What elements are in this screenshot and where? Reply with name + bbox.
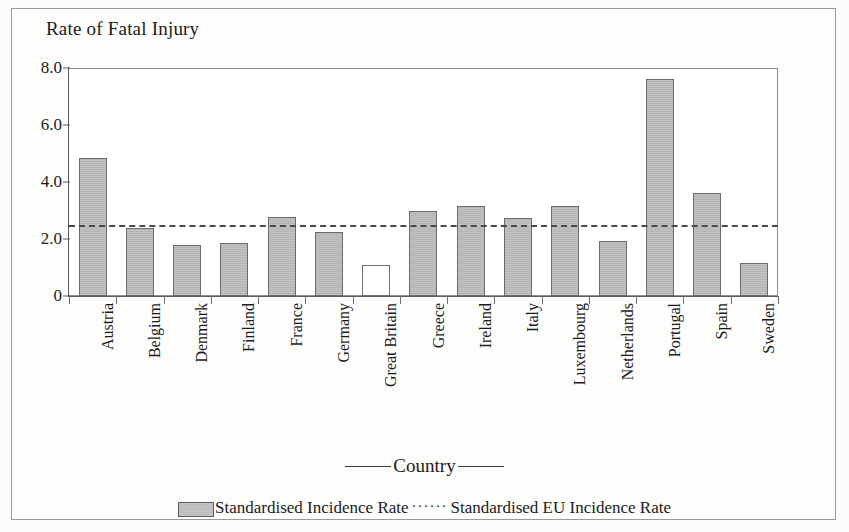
x-axis-tick-mark xyxy=(683,296,684,304)
x-axis-category-text: Sweden xyxy=(761,303,777,354)
axis-title-rule-right xyxy=(458,466,504,467)
y-axis-tick-label: 4.0 xyxy=(0,172,62,192)
x-axis-category-label: Italy xyxy=(525,303,541,332)
bar xyxy=(362,265,390,296)
bar-slot xyxy=(589,68,636,296)
x-axis-tick-mark xyxy=(589,296,590,304)
bar-slot xyxy=(636,68,683,296)
x-axis-category-text: Denmark xyxy=(194,303,210,363)
x-axis-category-label: Netherlands xyxy=(620,303,636,380)
bar-slot xyxy=(731,68,778,296)
x-axis-category-label: Sweden xyxy=(761,303,777,354)
bar-series xyxy=(69,68,778,296)
x-axis-category-text: Spain xyxy=(714,303,730,339)
bar-slot xyxy=(542,68,589,296)
bar xyxy=(173,245,201,296)
bar-slot xyxy=(164,68,211,296)
x-axis-category-label: Ireland xyxy=(478,303,494,348)
x-axis-category-text: Belgium xyxy=(147,303,163,358)
chart-legend: Standardised Incidence Rate ······ Stand… xyxy=(0,498,849,518)
bar-slot xyxy=(683,68,730,296)
axis-title-rule-left xyxy=(345,466,391,467)
bar xyxy=(268,217,296,296)
x-axis-tick-mark xyxy=(69,296,70,304)
x-axis-tick-mark xyxy=(778,296,779,304)
x-axis-category-label: Great Britain xyxy=(383,303,399,387)
x-axis-category-label: Austria xyxy=(100,303,116,350)
x-axis-category-text: Great Britain xyxy=(383,303,399,387)
x-axis-tick-mark xyxy=(258,296,259,304)
bar xyxy=(551,206,579,296)
x-axis-category-label: France xyxy=(289,303,305,347)
bar xyxy=(646,79,674,296)
bar-slot xyxy=(305,68,352,296)
x-axis-category-text: Germany xyxy=(336,303,352,363)
x-axis-category-label: Greece xyxy=(431,303,447,348)
x-axis-category-label: Germany xyxy=(336,303,352,363)
bar-slot xyxy=(353,68,400,296)
x-axis-category-text: Finland xyxy=(241,303,257,352)
x-axis-category-text: Greece xyxy=(431,303,447,348)
bar-slot xyxy=(258,68,305,296)
y-axis-tick-label: 2.0 xyxy=(0,229,62,249)
x-axis-category-text: France xyxy=(289,303,305,347)
x-axis-tick-mark xyxy=(164,296,165,304)
x-axis-category-label: Spain xyxy=(714,303,730,339)
bar-slot xyxy=(211,68,258,296)
bar xyxy=(599,241,627,296)
bar xyxy=(740,263,768,296)
x-axis-tick-mark xyxy=(447,296,448,304)
x-axis-category-text: Netherlands xyxy=(620,303,636,380)
bar xyxy=(457,206,485,296)
x-axis-category-label: Luxembourg xyxy=(572,303,588,385)
x-axis-tick-mark xyxy=(305,296,306,304)
bar xyxy=(504,218,532,296)
x-axis-tick-mark xyxy=(636,296,637,304)
chart-title: Rate of Fatal Injury xyxy=(46,18,199,40)
bar xyxy=(409,211,437,297)
x-axis-category-label: Belgium xyxy=(147,303,163,358)
x-axis-tick-mark xyxy=(494,296,495,304)
x-axis-title-label: Country xyxy=(391,455,457,477)
x-axis-category-text: Portugal xyxy=(667,303,683,357)
x-axis-tick-mark xyxy=(400,296,401,304)
x-axis-category-text: Austria xyxy=(100,303,116,350)
y-axis-tick-label: 6.0 xyxy=(0,115,62,135)
x-axis-category-text: Italy xyxy=(525,303,541,332)
bar xyxy=(126,228,154,296)
y-axis-tick-label: 8.0 xyxy=(0,58,62,78)
x-axis-tick-mark xyxy=(353,296,354,304)
bar-slot xyxy=(116,68,163,296)
bar-slot xyxy=(447,68,494,296)
x-axis-category-label: Portugal xyxy=(667,303,683,357)
bar xyxy=(693,193,721,296)
legend-dotted-line-icon: ······ xyxy=(409,498,451,515)
x-axis-tick-mark xyxy=(542,296,543,304)
x-axis-line xyxy=(68,296,779,297)
bar-slot xyxy=(400,68,447,296)
x-axis-category-label: Finland xyxy=(241,303,257,352)
x-axis-category-text: Ireland xyxy=(478,303,494,348)
bar xyxy=(220,243,248,296)
chart-page: Rate of Fatal Injury 02.04.06.08.0 Austr… xyxy=(0,0,849,532)
x-axis-tick-mark xyxy=(731,296,732,304)
bar xyxy=(315,232,343,296)
bar-slot xyxy=(494,68,541,296)
x-axis-title: Country xyxy=(0,455,849,477)
legend-label-incidence-rate: Standardised Incidence Rate xyxy=(215,498,409,518)
x-axis-tick-mark xyxy=(116,296,117,304)
x-axis-category-text: Luxembourg xyxy=(572,303,588,385)
legend-swatch-icon xyxy=(178,502,214,517)
eu-reference-line xyxy=(69,225,778,227)
x-axis-category-label: Denmark xyxy=(194,303,210,363)
x-axis-tick-mark xyxy=(211,296,212,304)
bar-slot xyxy=(69,68,116,296)
bar xyxy=(79,158,107,296)
y-axis-tick-label: 0 xyxy=(0,286,62,306)
legend-label-eu-incidence-rate: Standardised EU Incidence Rate xyxy=(451,498,671,518)
